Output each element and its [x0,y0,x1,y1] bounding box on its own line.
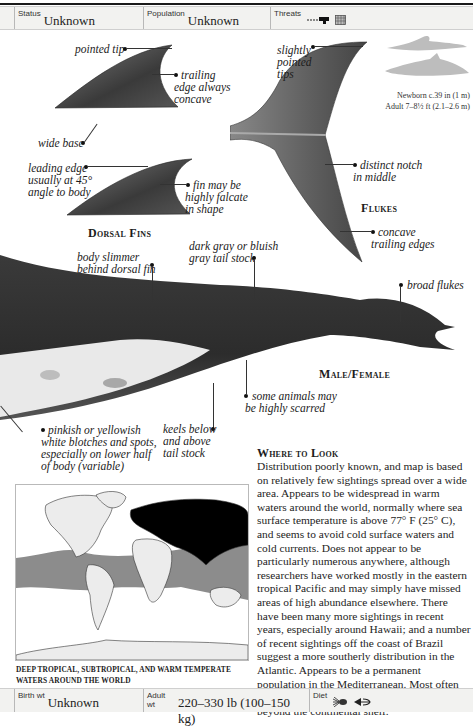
birth-weight-cell: Birth wt Unknown [14,689,143,712]
label-wide-base: wide base [38,137,84,149]
map-caption-line-1: DEEP TROPICAL, SUBTROPICAL, AND WARM TEM… [16,664,246,675]
birth-weight-label: Birth wt [18,691,45,700]
label-keels-1: keels below [163,423,216,435]
range-map [15,484,249,661]
size-text: Newborn c.39 in (1 m) Adult 7–8½ ft (2.1… [385,90,470,112]
leader-line [246,360,247,394]
label-trailing-edge-1: trailing [181,69,216,81]
newborn-size: Newborn c.39 in (1 m) [385,90,470,101]
label-blotches-4: of body (variable) [41,460,124,472]
leader-line [315,46,363,47]
label-leading-edge-3: angle to body [28,186,91,198]
male-female-heading: Male/Female [319,367,390,382]
label-scarred-2: be highly scarred [245,402,325,414]
pointer-dot [244,394,248,398]
label-slimmer-1: body slimmer [77,251,139,263]
leader-line [127,48,172,49]
top-info-bar: Status Unknown Population Unknown Threat… [0,6,473,30]
leader-line [400,286,401,322]
map-caption: DEEP TROPICAL, SUBTROPICAL, AND WARM TEM… [16,664,246,686]
world-map [16,485,248,660]
label-tips-1: slightly [277,44,311,56]
adult-weight-value: 220–330 lb (100–150 kg) [178,695,309,727]
label-notch-2: in middle [353,171,396,183]
leader-line [325,164,353,165]
label-notch-1: distinct notch [360,159,422,171]
harpoon-icon [306,11,330,29]
label-tailstock-2: gray tail stock [189,252,255,264]
fish-icon [353,693,371,711]
population-label: Population [147,9,185,18]
label-pointed-tip: pointed tip [75,43,125,55]
leader-line [340,231,371,232]
status-label: Status [18,9,41,18]
leader-line [254,259,255,299]
threats-cell: Threats [270,7,473,29]
label-keels-2: and above [163,435,211,447]
bottom-info-bar: Birth wt Unknown Adult wt 220–330 lb (10… [0,688,473,712]
adult-weight-label: Adult wt [147,691,175,709]
map-caption-line-2: WATERS AROUND THE WORLD [16,675,246,686]
label-falcate-3: in shape [185,203,224,215]
leader-line [152,266,153,308]
size-comparison-silhouettes [385,33,470,83]
leader-line [160,184,186,185]
population-cell: Population Unknown [143,7,270,29]
dolphin-silhouette-icon [385,53,469,76]
where-to-look-heading: Where to Look [257,446,338,461]
label-trailing-edge-3: concave [174,93,212,105]
pointer-dot [353,163,357,167]
label-slimmer-2: behind dorsal fin [77,263,156,275]
adult-weight-cell: Adult wt 220–330 lb (100–150 kg) [143,689,309,712]
label-leading-edge-1: leading edge [28,162,87,174]
adult-size: Adult 7–8½ ft (2.1–2.6 m) [385,101,470,112]
label-broad-flukes: broad flukes [407,279,464,291]
where-to-look-text: Distribution poorly known, and map is ba… [257,460,471,718]
label-blotches-2: white blotches and spots, [41,436,157,448]
label-tips-3: tips [277,68,294,80]
label-trailing-1: concave [378,226,416,238]
label-tips-2: pointed [277,56,312,68]
label-scarred-1: some animals may [252,390,337,402]
pointer-dot [174,73,178,77]
label-blotches-3: especially on lower half [41,448,151,460]
label-leading-edge-2: usually at 45° [28,174,92,186]
diet-label: Diet [313,691,327,700]
dorsal-fins-heading: Dorsal Fins [88,226,151,241]
flukes-heading: Flukes [361,201,397,216]
threats-label: Threats [274,9,301,18]
squid-icon [332,693,348,711]
leader-line [84,124,97,143]
diet-cell: Diet [309,689,473,712]
pointer-dot [371,230,375,234]
pointer-dot [41,428,45,432]
label-blotches-1: pinkish or yellowish [48,424,141,436]
status-value: Unknown [44,13,95,29]
leader-line [213,383,214,428]
label-trailing-2: trailing edges [371,238,435,250]
leader-line [152,74,174,75]
label-keels-3: tail stock [163,447,205,459]
label-trailing-edge-2: edge always [174,81,231,93]
leader-line [88,166,148,167]
body-illustration [0,255,473,425]
fishing-net-icon [335,11,346,29]
population-value: Unknown [188,13,239,29]
pointer-dot [186,183,190,187]
top-rule [0,3,473,5]
label-tailstock-1: dark gray or bluish [189,240,278,252]
birth-weight-value: Unknown [48,695,99,711]
status-cell: Status Unknown [14,7,143,29]
human-silhouette-icon [387,36,467,50]
